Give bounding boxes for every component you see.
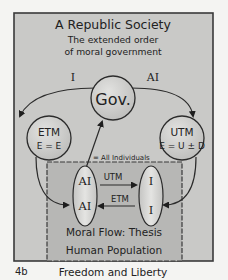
diagram-subtitle-line1: The extended order bbox=[67, 34, 159, 45]
i-ellipse-top: I bbox=[149, 174, 154, 188]
etm-node bbox=[27, 116, 71, 160]
ai-ellipse-top: AI bbox=[78, 174, 92, 188]
diagram-subtitle-line2: of moral government bbox=[64, 46, 162, 57]
republic-society-diagram: A Republic Society The extended order of… bbox=[0, 0, 228, 280]
etm-node-formula: E = E bbox=[37, 141, 62, 151]
utm-node bbox=[160, 116, 204, 160]
all-individuals-annotation: = All Individuals bbox=[93, 154, 150, 162]
diagram-title: A Republic Society bbox=[55, 17, 171, 32]
gov-node-label: Gov. bbox=[95, 90, 131, 109]
etm-node-title: ETM bbox=[38, 126, 60, 138]
arc-right-label: AI bbox=[146, 71, 159, 84]
utm-node-title: UTM bbox=[170, 126, 193, 138]
figure-caption: Freedom and Liberty bbox=[59, 266, 168, 278]
utm-node-formula: E = U ± D bbox=[159, 141, 205, 151]
arc-left-label: I bbox=[71, 71, 75, 84]
ai-ellipse-bottom: AI bbox=[78, 199, 92, 213]
population-caption-line1: Moral Flow: Thesis bbox=[66, 226, 162, 238]
arrow-etm-label: ETM bbox=[111, 194, 129, 204]
population-caption-line2: Human Population bbox=[66, 244, 162, 256]
i-ellipse-bottom: I bbox=[149, 203, 154, 217]
figure-number: 4b bbox=[15, 266, 28, 277]
arrow-utm-label: UTM bbox=[104, 172, 123, 182]
